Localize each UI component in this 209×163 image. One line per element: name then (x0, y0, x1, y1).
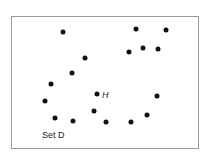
point (83, 56, 88, 61)
point (43, 99, 48, 104)
point (155, 94, 160, 99)
point (71, 119, 76, 124)
point (127, 50, 132, 55)
figure-frame (11, 16, 199, 149)
point (129, 120, 134, 125)
point (164, 28, 169, 33)
point (104, 120, 109, 125)
point (70, 71, 75, 76)
point (92, 109, 97, 114)
point (145, 113, 150, 118)
point (95, 92, 100, 97)
point (134, 27, 139, 32)
point (156, 47, 161, 52)
point (141, 46, 146, 51)
point (53, 116, 58, 121)
set-label: Set D (42, 130, 65, 140)
point (61, 30, 66, 35)
point (49, 82, 54, 87)
point-label-h: H (102, 90, 109, 100)
